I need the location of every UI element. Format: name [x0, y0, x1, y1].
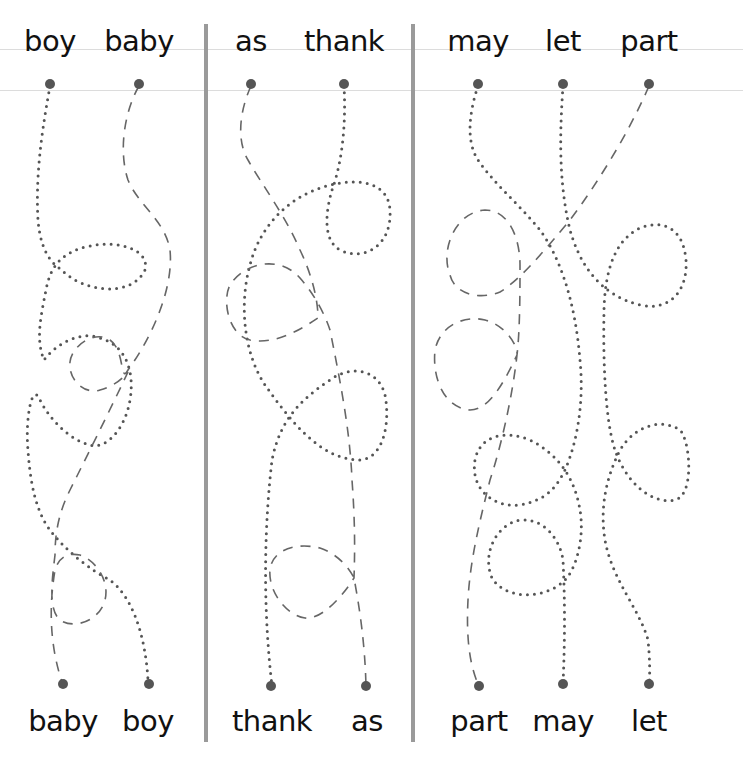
start-dot-as[interactable]: [246, 79, 256, 89]
path-let[interactable]: [561, 86, 689, 684]
start-dot-let[interactable]: [558, 79, 568, 89]
start-dot-boy[interactable]: [45, 79, 55, 89]
start-dot-thank[interactable]: [339, 79, 349, 89]
path-as[interactable]: [227, 86, 366, 686]
path-may[interactable]: [470, 86, 581, 684]
start-dot-part[interactable]: [644, 79, 654, 89]
path-baby[interactable]: [51, 86, 170, 682]
start-dot-may[interactable]: [473, 79, 483, 89]
end-dot-as[interactable]: [361, 681, 371, 691]
path-boy[interactable]: [27, 86, 148, 680]
path-thank[interactable]: [244, 86, 390, 686]
end-dot-thank[interactable]: [266, 681, 276, 691]
end-dot-baby[interactable]: [58, 679, 68, 689]
end-dot-boy[interactable]: [144, 679, 154, 689]
end-dot-may[interactable]: [558, 679, 568, 689]
tracing-paths: [0, 0, 743, 774]
end-dot-part[interactable]: [474, 681, 484, 691]
start-dot-baby[interactable]: [134, 79, 144, 89]
end-dot-let[interactable]: [644, 679, 654, 689]
